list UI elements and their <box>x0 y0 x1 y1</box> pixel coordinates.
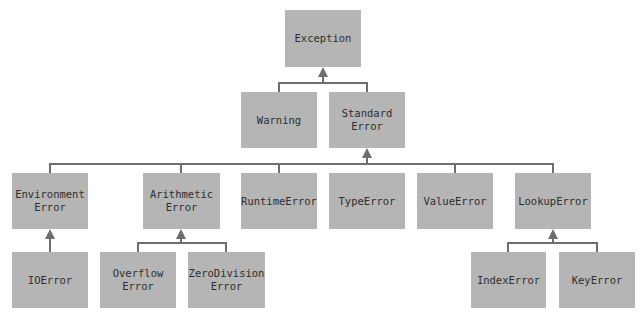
node-exception: Exception <box>285 10 361 67</box>
node-warning: Warning <box>241 92 317 148</box>
node-standard-error: Standard Error <box>329 92 405 148</box>
node-index-error: IndexError <box>471 252 546 308</box>
node-type-error: TypeError <box>329 173 405 229</box>
node-arithmetic-error: Arithmetic Error <box>143 173 220 229</box>
node-lookup-error: LookupError <box>515 173 591 229</box>
node-runtime-error: RuntimeError <box>241 173 317 229</box>
arrowhead-icon <box>362 148 372 158</box>
node-value-error: ValueError <box>417 173 493 229</box>
node-overflow-error: Overflow Error <box>100 252 176 308</box>
arrowhead-icon <box>318 67 328 77</box>
node-io-error: IOError <box>12 252 88 308</box>
arrowhead-icon <box>176 229 186 239</box>
arrowhead-icon <box>45 229 55 239</box>
node-zerodivision-error: ZeroDivision Error <box>188 252 265 308</box>
arrowhead-icon <box>548 229 558 239</box>
node-environment-error: Environment Error <box>12 173 88 229</box>
node-key-error: KeyError <box>559 252 635 308</box>
